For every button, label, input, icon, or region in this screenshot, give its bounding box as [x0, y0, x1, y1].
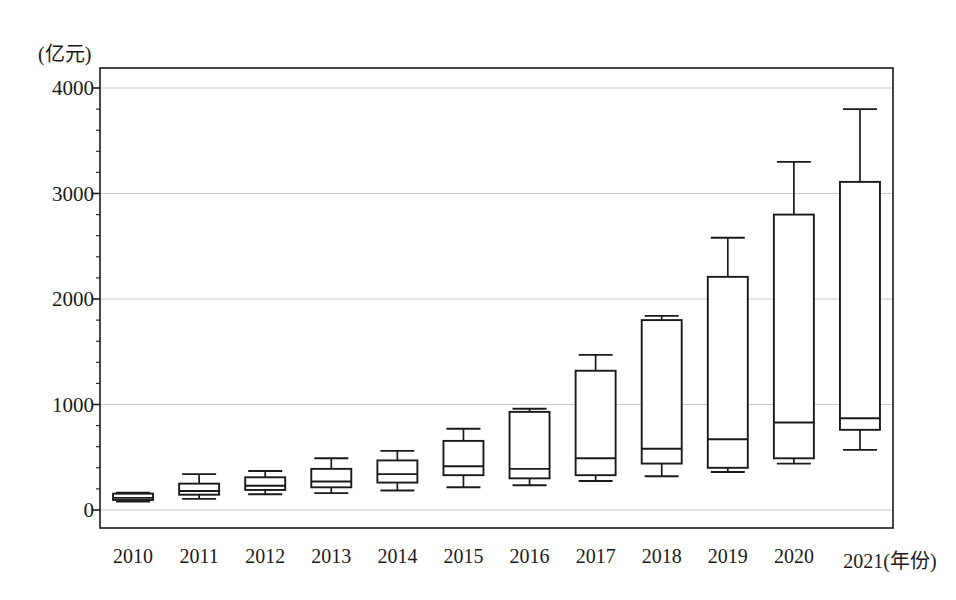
- x-tick-label: 2020: [774, 545, 814, 568]
- box-body: [576, 371, 616, 475]
- box-body: [113, 494, 153, 500]
- x-tick-label: 2018: [642, 545, 682, 568]
- box-body: [443, 441, 483, 475]
- x-tick-label: 2021(年份): [843, 545, 936, 574]
- x-tick-label: 2016: [510, 545, 550, 568]
- box-body: [245, 477, 285, 490]
- x-tick-label: 2010: [113, 545, 153, 568]
- x-tick-label: 2012: [245, 545, 285, 568]
- plot-area: [0, 0, 956, 600]
- x-tick-label: 2013: [311, 545, 351, 568]
- x-tick-label: 2015: [443, 545, 483, 568]
- box-body: [179, 484, 219, 495]
- box-body: [840, 182, 880, 430]
- box-body: [377, 460, 417, 482]
- x-tick-label: 2017: [576, 545, 616, 568]
- x-tick-label: 2019: [708, 545, 748, 568]
- box-body: [311, 469, 351, 487]
- box-body: [642, 320, 682, 463]
- boxplot-chart: (亿元) 01000200030004000 20102011201220132…: [0, 0, 956, 600]
- x-tick-label: 2011: [179, 545, 218, 568]
- x-tick-label: 2014: [377, 545, 417, 568]
